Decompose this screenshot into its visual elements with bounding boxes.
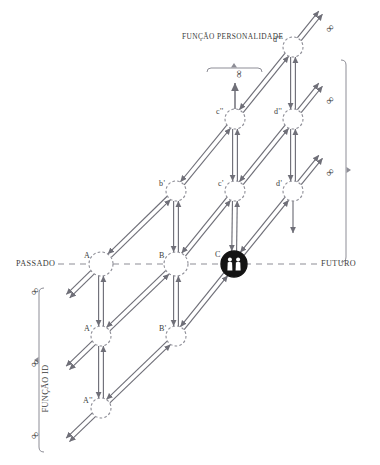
diagonal-connector <box>184 276 228 330</box>
personality-function-title: FUNÇÃO PERSONALIDADE <box>182 33 268 42</box>
node-d1[interactable] <box>283 181 303 201</box>
person-head-icon <box>228 258 232 262</box>
vertical-connector <box>232 201 233 251</box>
terminal-ray <box>301 14 322 40</box>
diagonal-connector <box>107 271 166 328</box>
node-b1[interactable] <box>166 181 186 201</box>
node-B[interactable] <box>164 252 188 276</box>
diagram-canvas: d'''c''d''b'c'd'ABCA'B'A''∞∞∞∞∞∞∞ FUNÇÃO… <box>0 0 380 465</box>
ego-bracket-tick <box>347 167 352 173</box>
diagonal-connector <box>107 341 168 399</box>
node-label-d2: d'' <box>274 107 282 116</box>
vertical-connector <box>237 201 238 251</box>
past-axis-label: PASSADO <box>16 259 55 268</box>
diagonal-connector <box>240 197 285 252</box>
node-Bp[interactable] <box>166 326 186 346</box>
terminal-ray <box>66 413 92 438</box>
node-C[interactable] <box>221 251 247 277</box>
terminal-ray <box>70 274 94 298</box>
node-d3[interactable] <box>283 37 303 57</box>
diagonal-connector <box>110 345 171 403</box>
infinity-symbol: ∞ <box>234 70 245 78</box>
diagonal-connector <box>185 200 230 256</box>
diagonal-connector <box>244 200 289 255</box>
node-layer <box>89 37 303 418</box>
terminal-ray <box>301 158 322 184</box>
terminal-ray <box>66 271 90 295</box>
person-body-icon <box>236 262 241 271</box>
diagonal-connector <box>239 53 284 109</box>
diagonal-connector <box>243 128 288 184</box>
diagonal-connector <box>243 56 288 112</box>
node-c1[interactable] <box>225 181 245 201</box>
terminal-ray <box>297 83 318 109</box>
diagonal-connector <box>239 125 284 181</box>
node-label-d1: d' <box>276 179 282 188</box>
node-label-C: C <box>215 250 221 259</box>
ego-bracket <box>341 60 346 262</box>
node-label-App: A'' <box>83 396 93 405</box>
node-App[interactable] <box>91 398 111 418</box>
diagonal-connector <box>108 196 167 254</box>
node-d2[interactable] <box>283 109 303 129</box>
node-c2[interactable] <box>225 109 245 129</box>
diagonal-connector <box>180 125 226 182</box>
node-label-c2: c'' <box>216 107 224 116</box>
person-body-icon <box>227 262 232 271</box>
diagonal-connector <box>184 128 230 185</box>
id-function-label: FUNÇÃO ID <box>41 365 50 413</box>
diagonal-connector <box>180 273 224 327</box>
terminal-ray <box>297 155 318 181</box>
diagram-artwork <box>0 0 380 465</box>
connector-lines <box>66 11 322 441</box>
terminal-ray <box>66 341 92 366</box>
bracket-layer <box>34 60 351 452</box>
diagonal-connector <box>111 200 170 258</box>
personality-bracket-tick <box>231 63 237 68</box>
node-A[interactable] <box>89 252 113 276</box>
terminal-ray <box>69 417 95 442</box>
node-label-c1: c' <box>218 179 224 188</box>
node-label-A: A <box>84 251 90 260</box>
person-head-icon <box>236 258 240 262</box>
node-label-b1: b' <box>159 179 165 188</box>
diagonal-connector <box>182 197 227 253</box>
node-label-B: B <box>159 251 165 260</box>
diagonal-connector <box>110 274 169 331</box>
terminal-ray <box>301 86 322 112</box>
node-label-Ap: A' <box>84 324 92 333</box>
future-axis-label: FUTURO <box>321 259 356 268</box>
node-Ap[interactable] <box>91 326 111 346</box>
terminal-ray <box>297 11 318 37</box>
terminal-ray <box>69 345 95 370</box>
node-label-Bp: B' <box>159 324 167 333</box>
